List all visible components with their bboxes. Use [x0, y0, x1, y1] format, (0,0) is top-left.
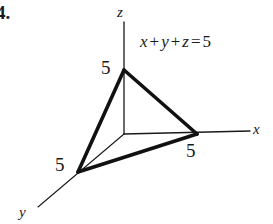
plane-triangle-group: [78, 70, 197, 172]
figure-canvas: 4. z x y 5 5 5 x+y+z=5: [0, 0, 273, 224]
coordinate-axes-and-plane-drawing: [0, 0, 273, 224]
equation-plus-2: +: [169, 32, 183, 51]
problem-number-label: 4.: [0, 3, 10, 22]
equation-term-y: y: [161, 32, 169, 51]
plane-triangle-face: [78, 70, 197, 172]
x-intercept-tick-label: 5: [186, 141, 196, 160]
y-intercept-tick-label: 5: [55, 155, 65, 174]
equation-equals-sign: =: [189, 32, 203, 51]
y-axis-label: y: [19, 205, 26, 220]
equation-plus-1: +: [148, 32, 162, 51]
x-axis-label: x: [253, 122, 260, 137]
equation-term-z: z: [182, 32, 189, 51]
z-intercept-tick-label: 5: [101, 58, 111, 77]
equation-value: 5: [203, 32, 212, 51]
equation-term-x: x: [140, 32, 148, 51]
plane-equation-label: x+y+z=5: [140, 33, 211, 50]
z-axis-label: z: [117, 5, 123, 20]
